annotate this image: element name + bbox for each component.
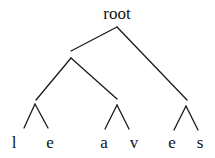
edge-root-to-right-subtree	[117, 27, 187, 100]
edge-left-node-to-le	[36, 58, 71, 100]
root-label: root	[103, 5, 130, 22]
edge-le-left-leg	[24, 104, 35, 128]
leaf-label: a	[100, 134, 108, 151]
edge-left-node-to-av	[71, 58, 117, 99]
edge-le-right-leg	[35, 104, 48, 128]
edge-av-left-leg	[105, 105, 117, 129]
edge-av-right-leg	[117, 105, 129, 129]
leaf-label: e	[168, 134, 176, 151]
edge-es-right-leg	[186, 106, 198, 130]
edge-root-to-left-subtree	[71, 27, 117, 51]
tree-diagram: root l e a v e s	[0, 0, 215, 158]
edge-es-left-leg	[174, 106, 186, 130]
leaf-label: s	[197, 134, 204, 151]
leaf-label: l	[12, 134, 17, 151]
leaf-label: e	[46, 134, 54, 151]
leaf-label: v	[130, 134, 139, 151]
